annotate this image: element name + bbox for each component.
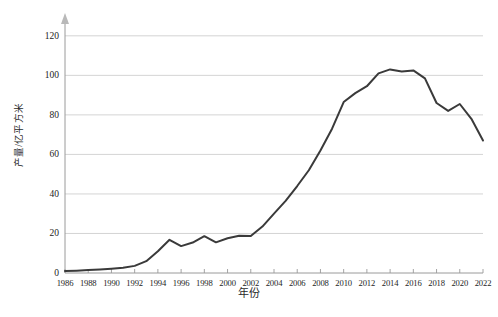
y-tick-label: 80 [27, 110, 59, 120]
y-tick-label: 40 [27, 189, 59, 199]
y-tick-label: 100 [27, 70, 59, 80]
y-axis-arrow-icon [61, 13, 69, 24]
line-chart: 020406080100120 198619881990199219941996… [0, 0, 498, 317]
x-axis-title: 年份 [0, 284, 498, 300]
chart-plot-area [0, 0, 498, 317]
x-tick-mark-group [65, 269, 483, 273]
y-tick-label: 0 [27, 268, 59, 278]
y-axis-title: 产量/亿平方米 [11, 85, 25, 185]
y-tick-label: 20 [27, 228, 59, 238]
gridline-group [65, 36, 483, 234]
data-series-line [65, 69, 483, 271]
axis-line-group [65, 22, 483, 273]
y-tick-label: 120 [27, 31, 59, 41]
y-tick-label: 60 [27, 149, 59, 159]
